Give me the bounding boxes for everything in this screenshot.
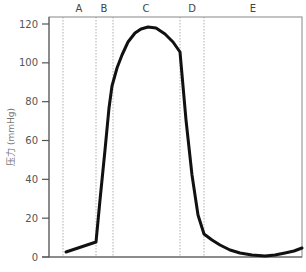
y-tick-label: 60 <box>25 135 38 146</box>
plot-frame <box>49 17 302 257</box>
phase-boundaries <box>63 17 204 257</box>
phase-label-d: D <box>188 3 196 14</box>
phase-label-b: B <box>101 3 108 14</box>
phase-label-e: E <box>250 3 256 14</box>
y-tick-label: 80 <box>25 96 38 107</box>
phase-label-c: C <box>143 3 150 14</box>
y-tick-label: 100 <box>19 57 38 68</box>
y-tick-label: 40 <box>25 174 38 185</box>
pressure-curve <box>66 27 302 256</box>
y-axis-title: 压力 (mmHg) <box>5 108 16 166</box>
y-tick-label: 20 <box>25 213 38 224</box>
y-tick-label: 120 <box>19 19 38 30</box>
phase-label-a: A <box>76 3 83 14</box>
phase-labels: ABCDE <box>76 3 257 14</box>
pressure-chart: 020406080100120 ABCDE 压力 (mmHg) <box>0 0 306 272</box>
y-tick-label: 0 <box>32 252 38 263</box>
y-ticks: 020406080100120 <box>19 19 49 263</box>
